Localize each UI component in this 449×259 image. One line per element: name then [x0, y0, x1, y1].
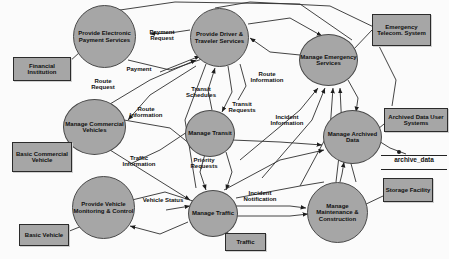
flow-label-payment: Payment [120, 66, 158, 72]
flow-label-traffic-information: Traffic Information [117, 155, 161, 168]
flow-label-payment-request: Payment Request [138, 29, 186, 42]
process-label: Provide Driver & Traveler Services [191, 31, 248, 44]
edge-payment-arrow [160, 56, 200, 72]
flow-label-route-request: Route Request [84, 78, 122, 91]
terminator-archived-data-user-systems[interactable]: Archived Data User Systems [384, 108, 448, 132]
process-provide-vehicle-monitoring-control[interactable]: Provide Vehicle Monitoring & Control [72, 176, 135, 239]
flow-label-vehicle-status: Vehicle Status [142, 197, 184, 203]
flow-label-text: Traffic Information [123, 155, 156, 167]
terminator-emergency-telecom-system[interactable]: Emergency Telecom. System [372, 14, 431, 46]
flow-label-priority-requests: Priority Requests [184, 157, 224, 170]
terminator-label: Storage Facility [386, 187, 431, 193]
flow-label-text: Incident Information [271, 114, 304, 126]
edge-traffic-vehicle [130, 222, 188, 234]
edge-telecom-emergency [353, 30, 372, 50]
terminator-label: Emergency Telecom. System [373, 24, 430, 37]
flow-label-text: Transit Requests [228, 101, 255, 113]
edge-driver-emergency [248, 18, 322, 36]
flow-label-route-information-top: Route Information [244, 71, 290, 84]
edge-transit-archived [232, 140, 322, 145]
edge-priority-requests-2 [226, 152, 232, 190]
terminator-label: Basic Vehicle [25, 232, 63, 238]
process-manage-transit[interactable]: Manage Transit [185, 110, 235, 157]
edge-maint-archived [340, 162, 344, 182]
edge-incident-notification-2 [236, 214, 308, 216]
flow-label-incident-information: Incident Information [265, 114, 309, 127]
edge-route-information-top [250, 38, 300, 55]
process-manage-commercial-vehicles[interactable]: Manage Commercial Vehicles [63, 99, 126, 155]
process-manage-archived-data[interactable]: Manage Archived Data [323, 110, 382, 164]
edge-vehicle-status-arrow [166, 206, 190, 210]
process-provide-electronic-payment-services[interactable]: Provide Electronic Payment Services [73, 5, 136, 68]
flow-label-text: Vehicle Status [143, 197, 184, 203]
process-label: Manage Archived Data [324, 131, 381, 144]
process-provide-driver-traveler-services[interactable]: Provide Driver & Traveler Services [190, 8, 249, 67]
terminator-basic-vehicle[interactable]: Basic Vehicle [19, 224, 69, 246]
process-manage-maintenance-construction[interactable]: Manage Maintenance & Construction [307, 182, 368, 243]
terminator-financial-institution[interactable]: Financial Institution [13, 57, 71, 81]
flow-label-incident-notification: Incident Notification [236, 190, 284, 203]
flow-label-route-information-left: Route Information [124, 106, 168, 119]
flow-label-text: Priority Requests [190, 157, 217, 169]
process-label: Manage Traffic [192, 210, 234, 216]
terminator-label: Basic Commercial Vehicle [13, 151, 71, 164]
flow-label-transit-requests: Transit Requests [222, 101, 262, 114]
flow-label-text: Payment [126, 66, 151, 72]
process-label: Provide Vehicle Monitoring & Control [73, 201, 134, 214]
edge-incident-notification [236, 206, 306, 208]
process-label: Manage Maintenance & Construction [308, 203, 367, 222]
terminator-traffic[interactable]: Traffic [225, 233, 266, 251]
edge-telecom-down [378, 44, 396, 106]
data-flow-diagram-canvas: Provide Electronic Payment Services Prov… [0, 0, 449, 259]
process-manage-emergency-services[interactable]: Manage Emergency Services [299, 34, 358, 86]
flow-label-text: Payment Request [149, 29, 174, 41]
process-manage-traffic[interactable]: Manage Traffic [188, 190, 238, 237]
process-label: Manage Emergency Services [300, 54, 357, 67]
flow-label-text: Transit Schedules [186, 86, 216, 98]
flow-label-transit-schedules: Transit Schedules [180, 86, 222, 99]
process-label: Manage Transit [188, 130, 232, 136]
terminator-label: Financial Institution [14, 63, 70, 76]
process-label: Manage Commercial Vehicles [64, 121, 125, 134]
terminator-label: Archived Data User Systems [385, 114, 447, 127]
flow-label-text: Route Information [251, 71, 284, 83]
process-label: Provide Electronic Payment Services [74, 30, 135, 43]
flow-label-text: Incident Notification [244, 190, 277, 202]
flow-label-text: Route Request [91, 78, 115, 90]
terminator-storage-facility[interactable]: Storage Facility [383, 178, 433, 202]
terminator-label: Traffic [236, 239, 254, 245]
edge-emergency-archived [348, 80, 358, 112]
datastore-label: archive_data [394, 156, 434, 163]
terminator-basic-commercial-vehicle[interactable]: Basic Commercial Vehicle [12, 142, 72, 172]
edge-dot-datastore [397, 150, 401, 154]
datastore-archive-data[interactable]: archive_data [381, 155, 447, 170]
flow-label-text: Route Information [130, 106, 163, 118]
